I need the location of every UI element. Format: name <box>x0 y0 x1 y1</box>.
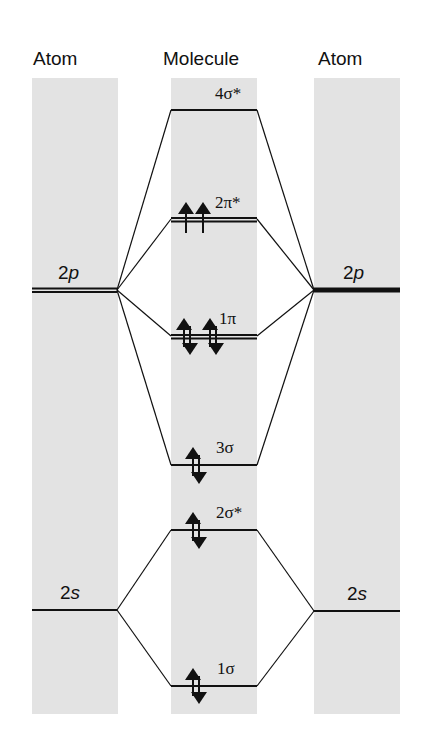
orbital-diagram <box>0 0 422 740</box>
left-2p-level <box>32 289 117 293</box>
electron-pair-icon <box>210 324 216 349</box>
mo-level-2pi-star <box>171 218 257 222</box>
electrons <box>184 208 216 698</box>
correlation-lines <box>117 110 314 686</box>
electron-pair-icon <box>184 324 190 349</box>
